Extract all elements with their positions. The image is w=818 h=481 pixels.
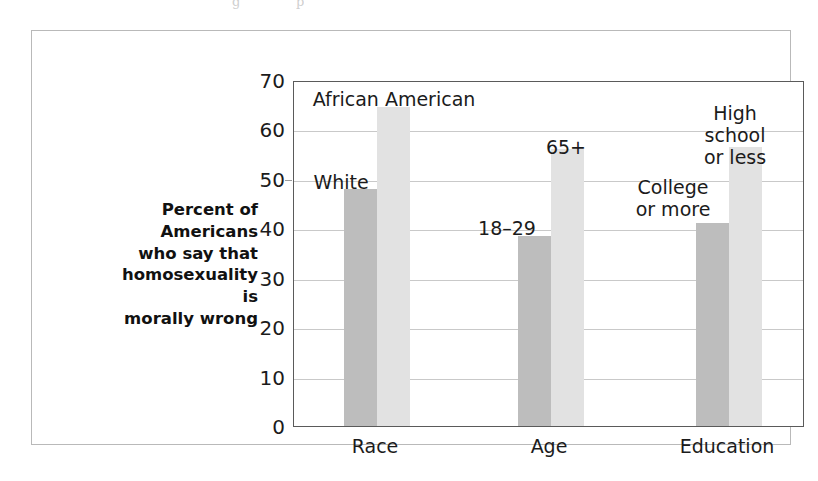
y-axis-tick-label: 30	[239, 269, 285, 289]
bar	[344, 189, 377, 426]
y-axis-tickmark	[285, 180, 292, 181]
y-axis-tick-label: 20	[239, 318, 285, 338]
y-axis-tick-label: 50	[239, 170, 285, 190]
scan-artifact-glyph-2: p	[296, 0, 304, 9]
gridline	[294, 181, 803, 182]
bar-annotation: White	[313, 171, 368, 193]
bar-annotation: 65+	[546, 136, 586, 158]
x-axis-label: Age	[531, 435, 568, 457]
scan-artifact-glyph-1: g	[232, 0, 240, 9]
figure-frame: Percent of Americans who say that homose…	[31, 30, 791, 445]
bar-annotation: College or more	[636, 176, 711, 220]
y-axis-tick-label: 0	[239, 417, 285, 437]
scan-artifact-row: g p	[0, 0, 818, 22]
bar	[696, 223, 729, 426]
bar-annotation: African American	[313, 88, 476, 110]
bar-annotation: High school or less	[701, 102, 769, 168]
y-axis-tick-label: 70	[239, 71, 285, 91]
y-axis-tick-label: 60	[239, 120, 285, 140]
plot-area: African AmericanWhite65+18–29High school…	[293, 81, 804, 427]
bar-annotation: 18–29	[478, 217, 536, 239]
y-axis-ticks: 010203040506070	[235, 81, 285, 427]
x-axis-label: Education	[680, 435, 775, 457]
bar	[518, 236, 551, 426]
bar	[729, 147, 762, 426]
y-axis-tick-label: 10	[239, 368, 285, 388]
y-axis-tick-label: 40	[239, 219, 285, 239]
bar	[551, 149, 584, 426]
bar	[377, 107, 410, 426]
x-axis-label: Race	[352, 435, 399, 457]
